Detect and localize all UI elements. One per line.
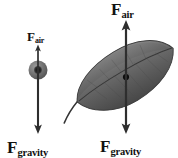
- force-diagram: Fair Fgravity Fair Fgravity: [0, 0, 178, 158]
- label-subscript: gravity: [17, 147, 48, 158]
- label-symbol: F: [7, 138, 17, 157]
- diagram-canvas: [0, 0, 178, 158]
- label-subscript: air: [35, 36, 44, 45]
- label-ball-gravity-force: Fgravity: [7, 139, 48, 158]
- label-symbol: F: [27, 29, 35, 44]
- label-ball-air-force: Fair: [27, 28, 44, 45]
- label-subscript: air: [121, 9, 133, 20]
- label-leaf-gravity-force: Fgravity: [100, 138, 141, 158]
- leaf-object: [45, 27, 178, 135]
- label-leaf-air-force: Fair: [111, 1, 134, 21]
- label-subscript: gravity: [110, 146, 141, 157]
- label-symbol: F: [111, 0, 121, 19]
- label-symbol: F: [100, 137, 110, 156]
